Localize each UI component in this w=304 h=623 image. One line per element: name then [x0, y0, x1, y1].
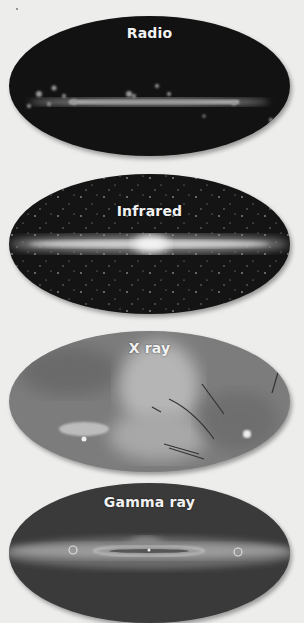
- panel-label-gamma-ray: Gamma ray: [9, 494, 290, 510]
- infrared-emission: [9, 174, 290, 314]
- gamma-ray-sky-map: Gamma ray: [9, 483, 290, 623]
- infrared-sky-map: Infrared: [9, 174, 290, 314]
- panel-label-radio: Radio: [9, 25, 290, 41]
- panel-label-infrared: Infrared: [9, 203, 290, 219]
- xray-sky-map: X ray: [9, 331, 290, 472]
- stray-mark: [16, 8, 18, 10]
- radio-sky-map: Radio: [9, 16, 290, 156]
- panel-label-xray: X ray: [9, 340, 290, 356]
